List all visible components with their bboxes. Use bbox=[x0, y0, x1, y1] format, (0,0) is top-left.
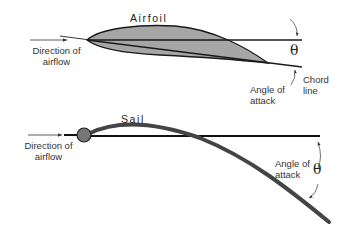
theta-symbol-airfoil: θ bbox=[290, 45, 298, 56]
direction-line1: Direction of bbox=[29, 45, 84, 56]
angle-arrow-bottom bbox=[291, 70, 295, 85]
angle-line2: attack bbox=[275, 169, 310, 180]
angle-arrow-sail-bottom bbox=[309, 184, 318, 198]
airfoil-vs-sail-diagram: Airfoil Direction of airflow θ Angle of … bbox=[0, 0, 350, 240]
chord-line1: Chord bbox=[303, 74, 329, 85]
airfoil-title: Airfoil bbox=[130, 13, 167, 24]
direction-line1: Direction of bbox=[20, 140, 77, 151]
angle-line1: Angle of bbox=[250, 84, 285, 95]
chord-line-label: Chord line bbox=[303, 74, 329, 96]
chord-line2: line bbox=[303, 85, 329, 96]
chord-extension-left bbox=[60, 36, 90, 40]
sail-title: Sail bbox=[121, 114, 145, 125]
airfoil-shape bbox=[87, 26, 268, 63]
angle-line2: attack bbox=[250, 95, 285, 106]
theta-symbol-sail: θ bbox=[313, 164, 321, 175]
mast-circle bbox=[77, 128, 91, 142]
airfoil-angle-label: Angle of attack bbox=[250, 84, 285, 106]
direction-line2: airflow bbox=[29, 56, 84, 67]
angle-arrow-top bbox=[290, 19, 297, 36]
direction-line2: airflow bbox=[20, 151, 77, 162]
sail-direction-label: Direction of airflow bbox=[20, 140, 77, 162]
angle-line1: Angle of bbox=[275, 158, 310, 169]
diagram-graphics bbox=[0, 0, 350, 240]
sail-angle-label: Angle of attack bbox=[275, 158, 310, 180]
airfoil-direction-label: Direction of airflow bbox=[29, 45, 84, 67]
